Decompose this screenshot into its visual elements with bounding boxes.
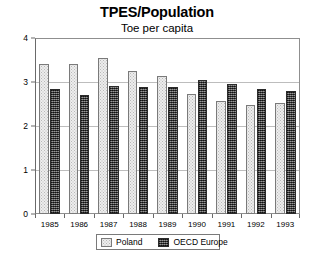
x-tick-label: 1991 — [217, 220, 235, 229]
x-tick-mark — [212, 214, 213, 218]
y-tick-label: 4 — [23, 34, 28, 43]
x-tick-mark — [94, 214, 95, 218]
bar-oecd-1985 — [50, 89, 60, 214]
y-tick-label: 0 — [23, 210, 28, 219]
bar-group — [275, 38, 296, 214]
bar-oecd-1989 — [168, 87, 178, 214]
legend-entry-poland: Poland — [101, 235, 142, 249]
bar-oecd-1987 — [109, 86, 119, 214]
bar-poland-1988 — [128, 71, 138, 214]
legend-swatch-icon — [158, 238, 169, 247]
bar-poland-1991 — [216, 101, 226, 214]
x-tick-label: 1992 — [247, 220, 265, 229]
x-tick-label: 1993 — [276, 220, 294, 229]
bar-group — [69, 38, 90, 214]
bar-poland-1986 — [69, 64, 79, 214]
bar-oecd-1992 — [257, 89, 267, 214]
x-tick-label: 1989 — [159, 220, 177, 229]
bar-group — [216, 38, 237, 214]
chart-container: TPES/Population Toe per capita 01234 198… — [0, 0, 314, 263]
x-tick-label: 1990 — [188, 220, 206, 229]
x-tick-mark — [299, 214, 300, 218]
bar-group — [128, 38, 149, 214]
bar-poland-1992 — [246, 105, 256, 214]
bar-group — [98, 38, 119, 214]
chart-title: TPES/Population — [0, 4, 314, 20]
x-tick-label: 1988 — [129, 220, 147, 229]
bar-poland-1990 — [187, 94, 197, 214]
bar-group — [246, 38, 267, 214]
legend-entry-oecd-europe: OECD Europe — [158, 235, 227, 249]
x-tick-mark — [64, 214, 65, 218]
legend-label: OECD Europe — [173, 238, 227, 247]
bar-poland-1987 — [98, 58, 108, 214]
bar-oecd-1986 — [80, 95, 90, 214]
x-tick-label: 1985 — [41, 220, 59, 229]
bar-poland-1985 — [39, 64, 49, 214]
x-tick-label: 1987 — [100, 220, 118, 229]
y-tick-label: 2 — [23, 122, 28, 131]
bar-poland-1989 — [157, 76, 167, 214]
bar-oecd-1991 — [227, 84, 237, 214]
bar-poland-1993 — [275, 103, 285, 214]
legend-swatch-icon — [101, 238, 112, 247]
x-tick-mark — [241, 214, 242, 218]
bar-oecd-1990 — [198, 80, 208, 214]
x-tick-mark — [153, 214, 154, 218]
x-tick-mark — [271, 214, 272, 218]
x-axis: 198519861987198819891990199119921993 — [35, 214, 300, 236]
bar-oecd-1988 — [139, 87, 149, 214]
x-tick-mark — [182, 214, 183, 218]
chart-legend: PolandOECD Europe — [96, 234, 220, 250]
y-axis: 01234 — [0, 30, 35, 222]
bar-group — [187, 38, 208, 214]
chart-subtitle: Toe per capita — [0, 22, 314, 35]
bar-oecd-1993 — [286, 91, 296, 214]
bars-layer — [35, 38, 300, 214]
x-tick-label: 1986 — [70, 220, 88, 229]
bar-group — [157, 38, 178, 214]
legend-label: Poland — [116, 238, 142, 247]
x-tick-mark — [123, 214, 124, 218]
y-tick-label: 1 — [23, 166, 28, 175]
y-tick-label: 3 — [23, 78, 28, 87]
x-tick-mark — [35, 214, 36, 218]
bar-group — [39, 38, 60, 214]
